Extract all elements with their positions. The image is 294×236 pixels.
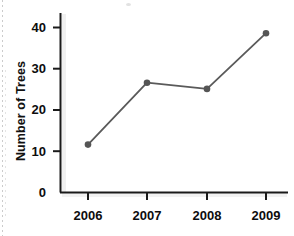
data-point-2009 [263,30,270,37]
data-point-markers [85,30,270,148]
data-line-number-of-trees [88,33,266,144]
data-point-2008 [204,86,211,93]
data-point-2007 [144,79,151,86]
axis-shadow-horizontal [62,193,287,197]
axis-shadow-vertical [62,14,66,194]
data-point-2006 [85,141,92,148]
y-axis-ticks [53,28,60,152]
plot-area [0,0,294,236]
chart-container: Number of Trees 40 30 20 10 0 2006 2007 … [0,0,294,236]
